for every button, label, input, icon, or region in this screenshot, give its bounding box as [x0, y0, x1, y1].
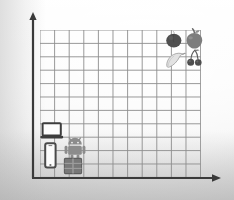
- apple-sticker[interactable]: [184, 28, 205, 50]
- banana-sticker[interactable]: [164, 52, 186, 69]
- plum-icon: [164, 30, 184, 49]
- cherry-sticker[interactable]: [187, 49, 203, 67]
- apple-icon: [184, 28, 205, 50]
- chip-sticker[interactable]: [63, 157, 83, 175]
- cherries-icon: [187, 49, 203, 67]
- laptop-icon: [40, 122, 64, 140]
- chip-icon: [63, 157, 83, 175]
- plum-sticker[interactable]: [164, 30, 184, 49]
- banana-icon: [164, 52, 186, 69]
- phone-sticker[interactable]: [44, 142, 57, 169]
- grid-activity-canvas: [0, 0, 234, 200]
- phone-icon: [44, 142, 57, 169]
- laptop-sticker[interactable]: [40, 122, 64, 140]
